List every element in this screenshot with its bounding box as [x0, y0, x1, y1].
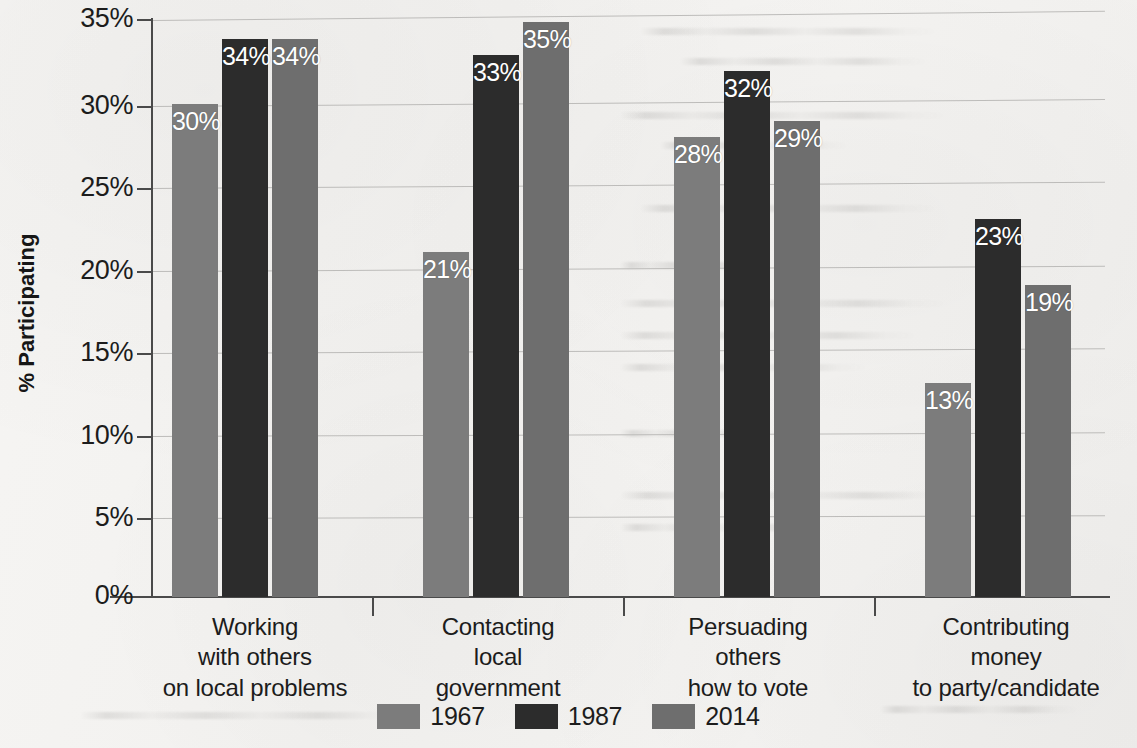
category-line: Contacting [378, 612, 618, 642]
category-line: with others [135, 642, 375, 672]
bar-value-label: 34% [222, 44, 268, 70]
category-line: to party/candidate [875, 673, 1137, 703]
legend-swatch-icon [652, 704, 695, 729]
y-axis-label-10: 10% [13, 422, 133, 449]
y-tick-20 [137, 271, 152, 273]
bar-value-label: 28% [674, 142, 720, 168]
bar-1967-contacting-local-government: 21% [423, 252, 469, 597]
bar-1987-contributing-money: 23% [975, 219, 1021, 597]
bar-2014-persuading-others: 29% [774, 121, 820, 597]
bar-value-label: 29% [774, 126, 820, 152]
bar-value-label: 23% [975, 224, 1021, 250]
category-line: money [875, 642, 1137, 672]
bar-value-label: 13% [925, 388, 971, 414]
category-line: how to vote [628, 673, 868, 703]
y-axis-label-35: 35% [13, 5, 133, 32]
category-line: Working [135, 612, 375, 642]
category-line: local [378, 642, 618, 672]
chart-page: 35% 30% 25% 20% 15% 10% 5% 0% % Particip… [0, 0, 1137, 748]
bar-1967-contributing-money: 13% [925, 383, 971, 597]
y-axis-label-30: 30% [13, 92, 133, 119]
y-tick-30 [137, 106, 152, 108]
chart-legend: 1967 1987 2014 [0, 702, 1137, 731]
y-axis-label-25: 25% [13, 174, 133, 201]
y-axis-label-5: 5% [13, 504, 133, 531]
x-axis-category-label-working-with-others: Working with others on local problems [135, 612, 375, 703]
y-tick-0 [137, 596, 152, 598]
bar-2014-contributing-money: 19% [1025, 285, 1071, 597]
x-axis-group-separator [623, 598, 625, 616]
legend-label: 1967 [430, 702, 484, 731]
x-axis-category-label-contacting-local-government: Contacting local government [378, 612, 618, 703]
category-line: Contributing [875, 612, 1137, 642]
y-axis-line [151, 18, 153, 598]
bar-1987-persuading-others: 32% [724, 71, 770, 597]
legend-swatch-icon [515, 704, 558, 729]
y-tick-35 [137, 19, 152, 21]
x-axis-category-label-contributing-money: Contributing money to party/candidate [875, 612, 1137, 703]
bar-2014-contacting-local-government: 35% [523, 22, 569, 597]
bar-value-label: 34% [272, 44, 318, 70]
bar-value-label: 30% [172, 109, 218, 135]
legend-swatch-icon [377, 704, 420, 729]
bar-1967-working-with-others: 30% [172, 104, 218, 597]
bar-1987-contacting-local-government: 33% [473, 55, 519, 597]
category-line: on local problems [135, 673, 375, 703]
y-axis-label-0: 0% [13, 582, 133, 609]
gridline-35 [152, 11, 1105, 21]
y-tick-15 [137, 353, 152, 355]
legend-item-1967: 1967 [377, 702, 484, 731]
bar-1967-persuading-others: 28% [674, 137, 720, 597]
x-axis-category-label-persuading-others: Persuading others how to vote [628, 612, 868, 703]
category-line: government [378, 673, 618, 703]
bar-value-label: 35% [523, 27, 569, 53]
y-axis-title: % Participating [14, 213, 40, 413]
bar-value-label: 33% [473, 60, 519, 86]
bar-chart-plot-area: 35% 30% 25% 20% 15% 10% 5% 0% % Particip… [0, 0, 1137, 748]
y-tick-25 [137, 188, 152, 190]
bar-value-label: 19% [1025, 290, 1071, 316]
bar-value-label: 21% [423, 257, 469, 283]
category-line: Persuading [628, 612, 868, 642]
legend-label: 2014 [705, 702, 759, 731]
y-tick-5 [137, 518, 152, 520]
bar-1987-working-with-others: 34% [222, 39, 268, 597]
legend-label: 1987 [568, 702, 622, 731]
legend-item-1987: 1987 [515, 702, 622, 731]
bar-2014-working-with-others: 34% [272, 39, 318, 597]
category-line: others [628, 642, 868, 672]
bar-value-label: 32% [724, 76, 770, 102]
legend-item-2014: 2014 [652, 702, 759, 731]
y-tick-10 [137, 436, 152, 438]
